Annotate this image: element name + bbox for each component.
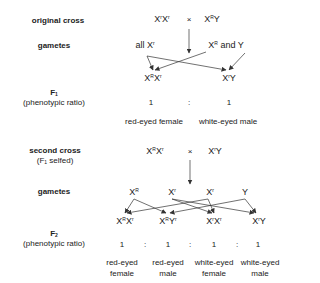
f2-ratio-sep-2: : — [189, 240, 191, 249]
f2-phenotype-3: white-eyedfemale — [195, 257, 234, 279]
gamete-xR: XR — [129, 187, 139, 197]
f1-phenotype-female: red-eyed female — [125, 117, 183, 126]
f2-phenotype-4: white-eyedmale — [241, 257, 280, 279]
f2-sublabel: (phenotypic ratio) — [23, 239, 85, 248]
cross-symbol-2: × — [188, 147, 193, 156]
f1-label: F1 — [50, 88, 58, 97]
original-cross-female-genotype: XrXr — [154, 14, 169, 24]
gametes-label-2: gametes — [38, 187, 70, 196]
second-cross-female-genotype: XRXr — [146, 146, 163, 156]
cross-symbol: × — [187, 15, 192, 24]
f2-genotype-3: XrXr — [206, 216, 221, 226]
f2-ratio-3: 1 — [212, 240, 216, 249]
f2-genotype-2: XRYr — [159, 216, 176, 226]
f2-phenotype-2: red-eyedmale — [152, 257, 184, 279]
f2-ratio-1: 1 — [120, 240, 124, 249]
gamete-y: Y — [242, 187, 248, 197]
gamete-xr-male: Xr — [206, 187, 214, 197]
gametes-label-1: gametes — [38, 41, 70, 50]
f2-genotype-4: XrY — [252, 216, 266, 226]
f2-genotype-1: XRXr — [116, 216, 133, 226]
f1-ratio-sep: : — [188, 98, 190, 107]
f1-ratio-2: 1 — [227, 98, 231, 107]
f1-genotype-male: XrY — [222, 73, 236, 83]
gamete-male-xr-and-y: XR and Y — [208, 40, 244, 50]
second-cross-label: second cross — [29, 146, 81, 155]
f1-phenotype-male: white-eyed male — [199, 117, 257, 126]
f2-ratio-2: 1 — [166, 240, 170, 249]
f1-sublabel: (phenotypic ratio) — [23, 98, 85, 107]
gamete-xr-female: Xr — [168, 187, 176, 197]
original-cross-male-genotype: XRY — [204, 14, 220, 24]
f1-ratio-1: 1 — [149, 98, 153, 107]
f2-phenotype-1: red-eyedfemale — [106, 257, 138, 279]
second-cross-male-genotype: XrY — [208, 146, 222, 156]
f1-genotype-female: XRXr — [144, 73, 161, 83]
f2-ratio-sep-1: : — [144, 240, 146, 249]
gamete-female-all-xr: all Xr — [135, 40, 154, 50]
original-cross-label: original cross — [32, 16, 84, 25]
f2-ratio-sep-3: : — [236, 240, 238, 249]
second-cross-sublabel: (F1 selfed) — [37, 156, 74, 165]
f2-label: F2 — [50, 229, 58, 238]
f2-ratio-4: 1 — [256, 240, 260, 249]
